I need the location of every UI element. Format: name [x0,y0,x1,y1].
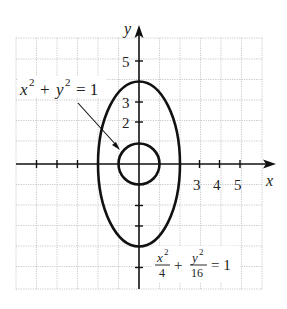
svg-text:2: 2 [65,76,71,88]
y-axis-label: y [122,20,132,38]
svg-text:x: x [19,80,28,99]
y-tick-5: 5 [122,54,130,70]
svg-text:= 1: = 1 [76,80,98,99]
svg-text:y: y [190,250,198,265]
y-tick-3: 3 [122,95,130,111]
svg-text:x: x [156,250,163,265]
svg-text:= 1: = 1 [211,257,231,273]
x-tick-4: 4 [213,177,221,193]
graph: y x 3 4 5 5 3 2 x 2 + y 2 = 1 x 2 4 + y … [0,0,287,309]
x-tick-5: 5 [234,177,242,193]
circle-equation-label: x 2 + y 2 = 1 [18,76,106,99]
y-tick-2: 2 [122,115,130,131]
svg-text:4: 4 [159,266,165,280]
svg-text:y: y [54,80,64,99]
svg-text:+: + [174,257,182,273]
svg-text:2: 2 [199,247,204,257]
ellipse-equation-label: x 2 4 + y 2 16 = 1 [152,246,240,282]
svg-text:+: + [40,80,50,99]
svg-text:16: 16 [191,266,203,280]
svg-text:2: 2 [164,247,169,257]
x-tick-3: 3 [193,177,201,193]
x-axis-label: x [265,172,273,189]
svg-text:2: 2 [29,76,35,88]
